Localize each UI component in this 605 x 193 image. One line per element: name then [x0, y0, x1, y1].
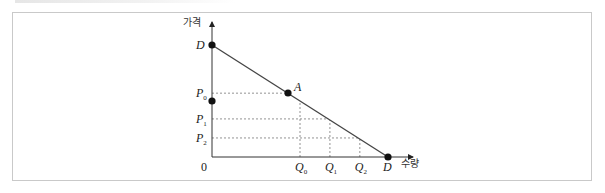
point-a-label: A: [293, 80, 302, 94]
demand-intercept-price-point: [208, 41, 215, 48]
price-label-p1: P1: [195, 112, 207, 128]
p0-point: [208, 97, 215, 104]
demand-label-top: D: [195, 38, 205, 52]
quantity-labels: Q0Q1Q2: [295, 160, 368, 176]
quantity-label-q2: Q2: [355, 160, 368, 176]
demand-curve-chart: 가격 수량 0 D D A P0P1P2 Q0Q1Q2: [0, 0, 605, 193]
price-label-p0: P0: [195, 86, 207, 102]
quantity-label-q0: Q0: [295, 160, 308, 176]
price-label-p2: P2: [195, 131, 207, 147]
demand-label-bottom: D: [382, 160, 392, 174]
y-axis-label: 가격: [183, 16, 201, 28]
quantity-label-q1: Q1: [325, 160, 338, 176]
point-a: [284, 89, 291, 96]
x-axis-label: 수량: [401, 158, 419, 169]
origin-label: 0: [201, 160, 207, 174]
price-labels: P0P1P2: [195, 86, 207, 147]
